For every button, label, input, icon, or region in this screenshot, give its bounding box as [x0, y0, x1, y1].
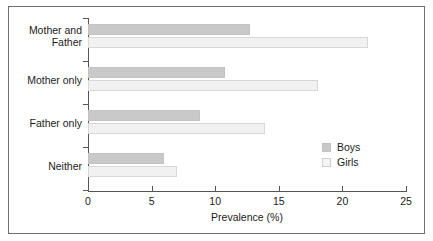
- bar-girls-mother-and-father[interactable]: [88, 37, 368, 48]
- x-axis-tick: [342, 186, 343, 192]
- legend-item-girls[interactable]: Girls: [322, 155, 360, 169]
- bar-girls-neither[interactable]: [88, 166, 177, 177]
- y-axis-label-mother-only: Mother only: [8, 74, 82, 86]
- x-axis-tick-label: 20: [337, 195, 349, 207]
- x-axis-tick-label: 10: [209, 195, 221, 207]
- y-axis-label-line: Father: [8, 36, 82, 48]
- x-axis-line: [88, 191, 406, 192]
- x-axis-tick: [406, 186, 407, 192]
- y-axis-label-mother-and-father: Mother and Father: [8, 24, 82, 48]
- y-axis-label-line: Mother and: [8, 24, 82, 36]
- bar-boys-mother-and-father[interactable]: [88, 24, 250, 35]
- legend-swatch-boys-icon: [322, 143, 331, 152]
- bar-boys-mother-only[interactable]: [88, 67, 225, 78]
- legend-label-boys: Boys: [337, 141, 360, 153]
- y-axis-labels: Mother and Father Mother only Father onl…: [4, 18, 82, 191]
- x-axis-tick-label: 25: [400, 195, 412, 207]
- legend-item-boys[interactable]: Boys: [322, 140, 360, 154]
- chart-legend: Boys Girls: [322, 140, 360, 170]
- bar-girls-father-only[interactable]: [88, 123, 265, 134]
- x-axis-tick: [152, 186, 153, 192]
- y-axis-label-father-only: Father only: [8, 117, 82, 129]
- chart-figure: Mother and Father Mother only Father onl…: [0, 0, 433, 241]
- x-axis-tick: [88, 186, 89, 192]
- legend-label-girls: Girls: [337, 156, 359, 168]
- x-axis-tick: [279, 186, 280, 192]
- x-axis-title: Prevalence (%): [88, 211, 406, 223]
- x-axis-tick-label: 5: [149, 195, 155, 207]
- bar-group-mother-only: [88, 61, 406, 104]
- bar-group-mother-and-father: [88, 18, 406, 61]
- y-axis-label-neither: Neither: [8, 160, 82, 172]
- legend-swatch-girls-icon: [322, 158, 331, 167]
- x-axis-tick-label: 15: [273, 195, 285, 207]
- bar-boys-father-only[interactable]: [88, 110, 200, 121]
- bar-girls-mother-only[interactable]: [88, 80, 318, 91]
- x-axis-tick: [215, 186, 216, 192]
- bar-boys-neither[interactable]: [88, 153, 164, 164]
- x-axis-tick-label: 0: [85, 195, 91, 207]
